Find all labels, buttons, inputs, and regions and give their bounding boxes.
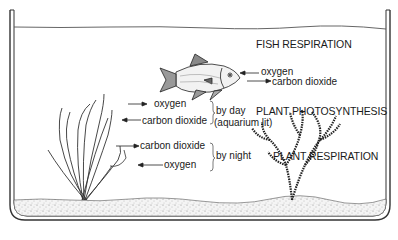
label-aquarium-lit: (aquarium lit) [214,118,272,128]
label-by-night: by night [216,151,251,161]
label-fish-carbon-dioxide: carbon dioxide [272,77,337,87]
label-night-carbon-dioxide: carbon dioxide [140,141,205,151]
label-by-day: by day [216,106,245,116]
label-day-carbon-dioxide: carbon dioxide [142,116,207,126]
water-surface [14,26,386,29]
braces [210,101,215,171]
label-plant-photosynthesis: PLANT PHOTOSYNTHESIS [256,106,387,117]
grass-plant [48,94,126,200]
label-day-oxygen: oxygen [154,99,186,109]
label-plant-respiration: PLANT RESPIRATION [273,151,378,162]
gravel-substrate [14,196,386,216]
label-fish-respiration: FISH RESPIRATION [256,39,352,50]
label-night-oxygen: oxygen [164,160,196,170]
fish [160,54,240,100]
